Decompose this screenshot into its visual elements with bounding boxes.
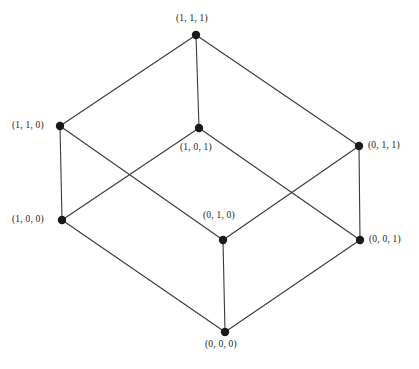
edge-011-001 — [359, 146, 360, 240]
vertex-label-101: (1, 0, 1) — [180, 143, 212, 153]
vertex-100 — [58, 216, 66, 224]
edges-group — [60, 35, 360, 332]
edge-110-100 — [60, 126, 62, 220]
vertex-label-111: (1, 1, 1) — [176, 14, 208, 24]
vertex-label-000: (0, 0, 0) — [205, 340, 237, 350]
edge-111-110 — [60, 35, 196, 126]
edge-010-000 — [223, 240, 225, 332]
vertices-group — [56, 31, 364, 336]
vertex-010 — [219, 236, 227, 244]
cube-diagram: (1, 1, 1)(1, 1, 0)(1, 0, 1)(0, 1, 1)(1, … — [0, 0, 419, 369]
edge-001-000 — [225, 240, 360, 332]
edge-111-011 — [196, 35, 359, 146]
edge-100-000 — [62, 220, 225, 332]
edge-011-010 — [223, 146, 359, 240]
vertex-000 — [221, 328, 229, 336]
vertex-label-001: (0, 0, 1) — [369, 235, 401, 245]
edge-101-001 — [199, 128, 360, 240]
vertex-label-100: (1, 0, 0) — [12, 215, 44, 225]
vertex-011 — [355, 142, 363, 150]
vertex-001 — [356, 236, 364, 244]
edge-111-101 — [196, 35, 199, 128]
vertex-101 — [195, 124, 203, 132]
cube-graph-svg — [0, 0, 419, 369]
vertex-111 — [192, 31, 200, 39]
vertex-label-011: (0, 1, 1) — [368, 141, 400, 151]
vertex-label-110: (1, 1, 0) — [12, 121, 44, 131]
vertex-label-010: (0, 1, 0) — [203, 211, 235, 221]
vertex-110 — [56, 122, 64, 130]
